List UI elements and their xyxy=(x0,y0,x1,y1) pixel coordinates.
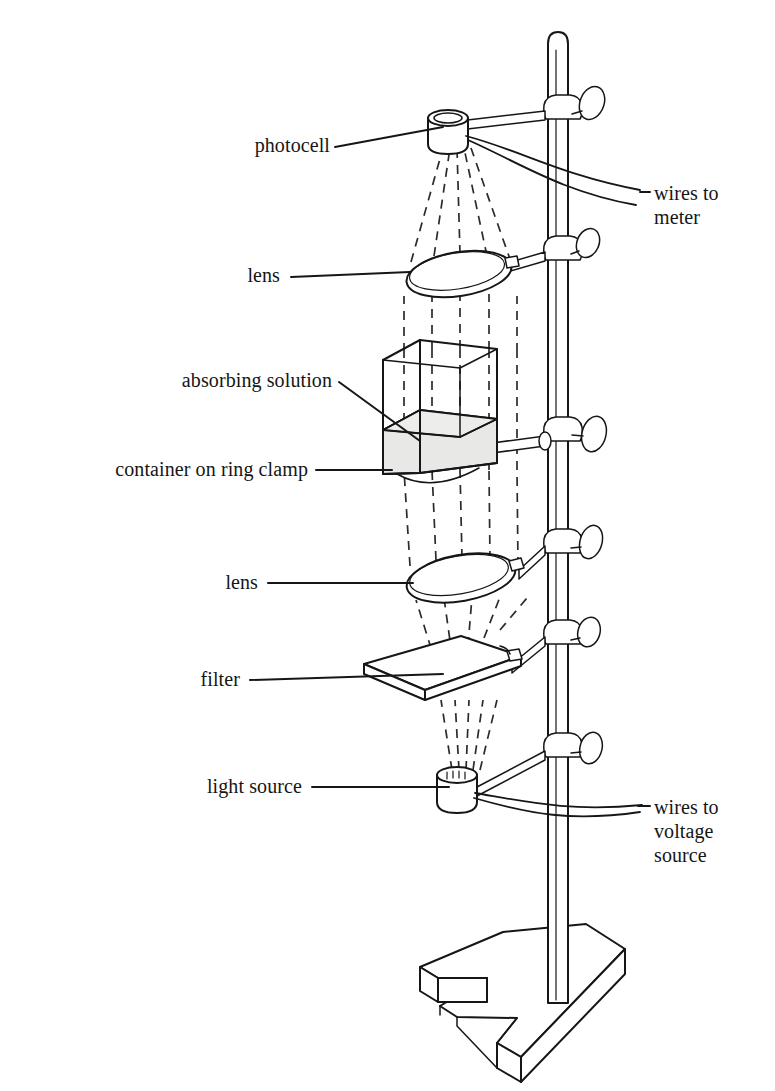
sample-container-component xyxy=(383,340,497,483)
filter-component xyxy=(364,636,522,700)
ring-stand-pole xyxy=(548,32,568,1003)
label-absorbing-solution: absorbing solution xyxy=(60,368,332,392)
label-lens-upper: lens xyxy=(120,263,280,287)
label-wires-to-meter-line1: wires to xyxy=(654,181,719,205)
leader-lens-upper xyxy=(291,272,410,277)
label-container-on-ring-clamp: container on ring clamp xyxy=(30,457,308,481)
ring-stand-base-detail xyxy=(395,900,655,1091)
label-wires-to-meter-line2: meter xyxy=(654,205,700,229)
label-photocell: photocell xyxy=(120,133,330,157)
label-light-source: light source xyxy=(110,774,302,798)
spectrophotometer-diagram: .ln { fill:none; stroke:#161616; stroke-… xyxy=(0,0,775,1091)
photocell-component xyxy=(428,110,468,154)
lens-upper-component xyxy=(403,244,519,304)
label-filter: filter xyxy=(110,667,240,691)
leader-photocell xyxy=(335,127,443,147)
lens-lower-component xyxy=(403,546,524,610)
leader-absorbing-solution xyxy=(339,382,420,441)
label-wires-to-voltage-line1: wires to xyxy=(654,795,719,819)
label-wires-to-voltage-line3: source xyxy=(654,843,707,867)
diagram-canvas: .ln { fill:none; stroke:#161616; stroke-… xyxy=(0,0,775,1091)
label-lens-lower: lens xyxy=(110,570,258,594)
light-source-component xyxy=(437,767,477,813)
label-wires-to-voltage-line2: voltage xyxy=(654,819,714,843)
